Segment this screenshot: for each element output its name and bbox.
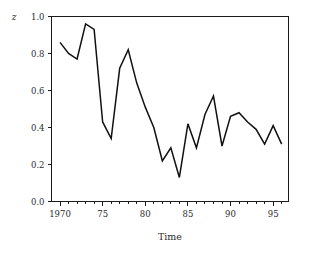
chart-background [0, 0, 309, 253]
x-tick-label: 1970 [49, 209, 71, 219]
chart-figure: 0.00.20.40.60.81.0 19707580859095 z Time [0, 0, 309, 253]
x-tick-label: 75 [97, 209, 108, 219]
x-tick-label: 80 [140, 209, 151, 219]
x-tick-label: 85 [182, 209, 193, 219]
y-tick-label: 0.0 [31, 197, 45, 207]
line-chart-canvas: 0.00.20.40.60.81.0 19707580859095 z Time [0, 0, 309, 253]
x-axis-title: Time [158, 231, 182, 242]
y-tick-label: 0.6 [31, 86, 45, 96]
y-tick-label: 0.2 [31, 160, 45, 170]
y-axis-title: z [11, 12, 17, 22]
y-tick-label: 0.4 [31, 123, 45, 133]
x-tick-label: 90 [225, 209, 236, 219]
y-tick-label: 0.8 [31, 49, 45, 59]
y-tick-label: 1.0 [31, 12, 45, 22]
x-tick-label: 95 [268, 209, 279, 219]
